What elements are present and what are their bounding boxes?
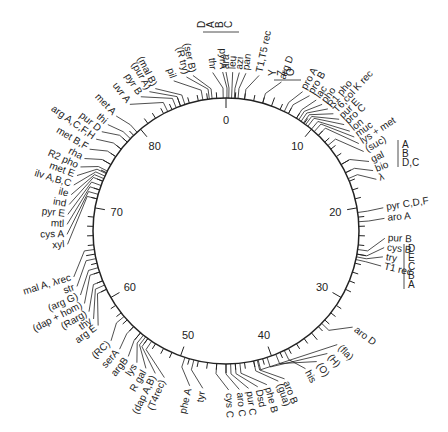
gene-label: aro A (387, 210, 411, 223)
circular-map-svg: 01020304050607080 pyrAaraleuazipanT1,T5 … (0, 0, 448, 432)
tick-mark (111, 305, 116, 308)
gene-leader-line (213, 73, 224, 98)
tick-mark (197, 361, 198, 367)
gene-label: λ (377, 171, 385, 183)
tick-mark (355, 263, 361, 264)
gene-leader-line (306, 116, 339, 124)
tick-mark (331, 313, 336, 317)
minute-ticks (86, 92, 366, 373)
tick-mark (325, 320, 329, 324)
tick-mark (333, 293, 342, 298)
gene-leader-line (90, 149, 116, 156)
gene-leader-line (84, 159, 110, 165)
scale-label: 50 (182, 329, 194, 341)
tick-mark (358, 245, 364, 246)
tick-mark (111, 293, 120, 298)
tick-mark (86, 254, 95, 256)
tick-mark (188, 359, 190, 365)
gene-label: aro C (235, 392, 248, 417)
tick-mark (296, 344, 299, 349)
gene-leader-line (94, 285, 105, 319)
scale-label: 10 (291, 140, 303, 152)
tick-mark (152, 344, 155, 349)
tick-mark (88, 245, 94, 246)
tick-mark (347, 208, 357, 210)
operon-gene-letter: O (285, 68, 296, 76)
tick-mark (311, 333, 317, 340)
tick-mark (169, 353, 171, 358)
gene-leader-line (108, 125, 130, 139)
scale-label: 40 (258, 329, 270, 341)
operon-gene-letter: A (408, 279, 415, 290)
gene-leader-line (245, 75, 260, 99)
tick-mark (207, 93, 208, 99)
tick-mark (304, 339, 308, 344)
gene-leader-line (322, 323, 353, 330)
tick-mark (346, 289, 351, 292)
gene-leader-line (96, 139, 121, 149)
gene-leader-line (186, 77, 209, 99)
gene-labels: pyrAaraleuazipanT1,T5 recthr(ser B)(R tr… (22, 29, 430, 418)
tick-mark (144, 119, 148, 124)
gene-leader-line (226, 364, 239, 389)
gene-leader-line (356, 257, 382, 259)
gene-label: pil (165, 66, 179, 79)
operon-gene-letter: D,C (402, 157, 419, 168)
gene-leader-line (311, 121, 349, 131)
gene-leader-line (97, 289, 106, 325)
tick-mark (305, 129, 311, 137)
tick-mark (271, 98, 274, 106)
gene-leader-line (346, 168, 374, 172)
tick-mark (245, 363, 246, 369)
gene-label: cys C (224, 393, 235, 418)
gene-label: mtl (51, 217, 65, 229)
tick-mark (288, 348, 291, 353)
tick-mark (181, 347, 184, 356)
tick-mark (161, 348, 164, 353)
tick-mark (95, 208, 105, 210)
genetic-map: 01020304050607080 pyrAaraleuazipanT1,T5 … (0, 0, 448, 432)
chromosome-ring (93, 98, 359, 364)
tick-mark (336, 153, 341, 156)
gene-leader-line (284, 92, 302, 112)
gene-leader-line (216, 364, 229, 390)
scale-label: 60 (124, 281, 136, 293)
gene-leader-line (111, 316, 124, 340)
tick-mark (349, 179, 355, 181)
tick-mark (280, 353, 282, 358)
gene-leader-line (263, 82, 282, 103)
gene-leader-line (74, 172, 105, 185)
gene-leader-line (328, 139, 364, 151)
gene-leader-line (137, 335, 143, 362)
tick-mark (123, 320, 127, 324)
gene-leader-line (348, 175, 376, 180)
tick-mark (141, 129, 147, 137)
gene-leader-line (232, 72, 233, 98)
scale-label: 80 (149, 140, 161, 152)
scale-label: 20 (329, 206, 341, 218)
scale-label: 0 (223, 114, 229, 126)
gene-leader-line (191, 360, 202, 388)
scale-label: 30 (316, 281, 328, 293)
gene-label: xyl (52, 238, 65, 250)
gene-label: tyr (194, 390, 207, 403)
gene-leader-line (120, 327, 134, 349)
tick-mark (263, 359, 265, 365)
tick-mark (352, 272, 358, 274)
tick-mark (355, 197, 361, 198)
gene-label: cys A (40, 228, 64, 240)
tick-mark (116, 313, 121, 317)
gene-leader-line (89, 281, 103, 312)
gene-leader-line (142, 339, 155, 374)
tick-mark (161, 108, 164, 113)
gene-leader-line (128, 333, 140, 357)
gene-leader-line (296, 100, 316, 118)
tick-mark (336, 305, 341, 308)
gene-label: T1,T5 rec (253, 29, 273, 73)
tick-mark (188, 97, 190, 103)
gene-leader-line (358, 208, 384, 213)
tick-mark (169, 104, 171, 109)
tick-mark (280, 104, 282, 109)
tick-mark (152, 113, 155, 118)
tick-mark (331, 145, 336, 149)
